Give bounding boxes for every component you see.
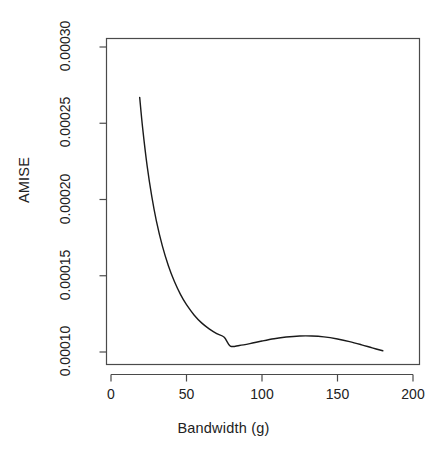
y-tick-label: 0.00010 <box>57 316 73 386</box>
y-tick-label: 0.00030 <box>57 11 73 81</box>
x-axis-title: Bandwidth (g) <box>0 420 447 436</box>
amise-bandwidth-plot: AMISE Bandwidth (g) 0.000100.000150.0002… <box>0 0 447 464</box>
x-axis-ticks <box>111 375 413 382</box>
plot-frame <box>107 39 420 365</box>
x-tick-label: 100 <box>237 386 287 402</box>
x-tick-label: 50 <box>162 386 212 402</box>
amise-curve <box>140 97 383 350</box>
y-tick-label: 0.00020 <box>57 164 73 234</box>
x-tick-label: 150 <box>313 386 363 402</box>
y-tick-label: 0.00015 <box>57 240 73 310</box>
x-tick-label: 200 <box>388 386 438 402</box>
x-tick-label: 0 <box>86 386 136 402</box>
y-tick-label: 0.00025 <box>57 87 73 157</box>
y-axis-ticks <box>100 47 107 352</box>
y-axis-title: AMISE <box>16 156 32 204</box>
